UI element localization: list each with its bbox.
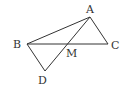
label-D: D	[38, 74, 47, 87]
label-B: B	[13, 38, 21, 51]
label-C: C	[111, 39, 119, 52]
segment-BD	[27, 44, 45, 71]
label-A: A	[85, 3, 95, 16]
geometry-figure: A B C M D	[0, 0, 126, 88]
segment-AC	[90, 17, 108, 44]
segment-AB	[27, 17, 90, 44]
label-M: M	[66, 47, 77, 60]
